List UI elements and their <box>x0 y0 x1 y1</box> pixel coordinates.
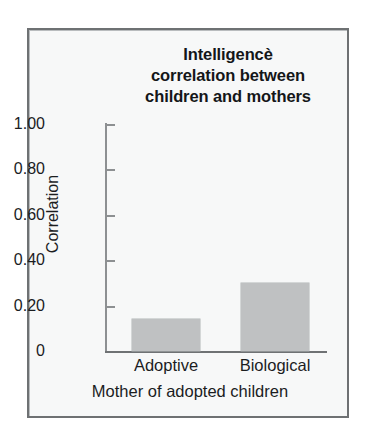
chart-title: Intelligencè correlation between childre… <box>117 44 339 107</box>
scanned-figure-page: Intelligencè correlation between childre… <box>0 0 374 442</box>
y-tick-label-0.20: 0.20 <box>0 298 45 314</box>
bar-biological <box>241 283 309 351</box>
x-tick-label-adoptive: Adoptive <box>106 356 226 375</box>
y-axis-line <box>105 123 107 352</box>
bar-adoptive <box>132 319 200 351</box>
y-tick-label-0.40: 0.40 <box>0 252 45 268</box>
y-tick-mark-0.20 <box>107 306 115 308</box>
y-tick-mark-0.40 <box>107 260 115 262</box>
y-tick-label-1.00: 1.00 <box>0 116 45 132</box>
y-axis-title: Correlation <box>44 149 62 279</box>
chart-title-line-2: correlation between <box>117 65 339 86</box>
y-tick-label-0.60: 0.60 <box>0 207 45 223</box>
x-tick-label-biological: Biological <box>215 356 335 375</box>
y-tick-mark-0.80 <box>107 169 115 171</box>
y-tick-mark-0.60 <box>107 215 115 217</box>
x-axis-title: Mother of adopted children <box>37 382 343 401</box>
y-tick-label-0.80: 0.80 <box>0 161 45 177</box>
y-tick-mark-1.00 <box>107 124 115 126</box>
chart-title-line-3: children and mothers <box>117 86 339 107</box>
y-tick-label-0: 0 <box>0 343 45 359</box>
x-axis-line <box>105 351 327 353</box>
chart-title-line-1: Intelligencè <box>117 44 339 65</box>
figure-frame: Intelligencè correlation between childre… <box>27 28 349 418</box>
